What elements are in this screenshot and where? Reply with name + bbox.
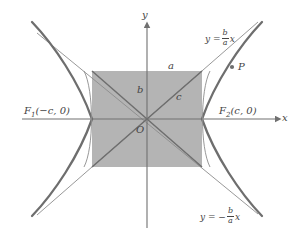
focus-right-letter: F xyxy=(219,105,226,116)
asymptote-upper-variable: x xyxy=(230,34,235,44)
asymptote-lower-variable: x xyxy=(235,212,240,222)
focus-left-coords: (−c, 0) xyxy=(35,105,70,116)
hyperbola-figure: y x O F1(−c, 0) F2(c, 0) a b c P y =bax … xyxy=(0,0,304,239)
focus-left-letter: F xyxy=(24,105,31,116)
point-p-marker xyxy=(230,65,234,69)
asymptote-lower-lhs: y = − xyxy=(200,212,226,222)
figure-canvas xyxy=(0,0,304,239)
asymptote-lower-equation: y = −bax xyxy=(200,208,240,226)
label-a: a xyxy=(168,61,174,71)
origin-label: O xyxy=(136,125,144,135)
asymptote-upper-numerator: b xyxy=(222,29,229,37)
asymptote-upper-lhs: y = xyxy=(205,34,221,44)
asymptote-upper-fraction: ba xyxy=(222,29,229,47)
focus-right-label: F2(c, 0) xyxy=(219,106,257,119)
x-axis-label: x xyxy=(282,113,288,123)
asymptote-lower-numerator: b xyxy=(227,207,234,215)
label-c: c xyxy=(176,92,182,102)
asymptote-upper-denominator: a xyxy=(222,39,229,47)
asymptote-lower-denominator: a xyxy=(227,217,234,225)
focus-right-coords: (c, 0) xyxy=(230,105,256,116)
focus-left-label: F1(−c, 0) xyxy=(24,106,70,119)
asymptote-upper-equation: y =bax xyxy=(205,30,235,48)
y-axis-label: y xyxy=(142,10,148,20)
label-b: b xyxy=(137,85,143,95)
label-point-p: P xyxy=(238,62,245,72)
asymptote-lower-fraction: ba xyxy=(227,207,234,225)
